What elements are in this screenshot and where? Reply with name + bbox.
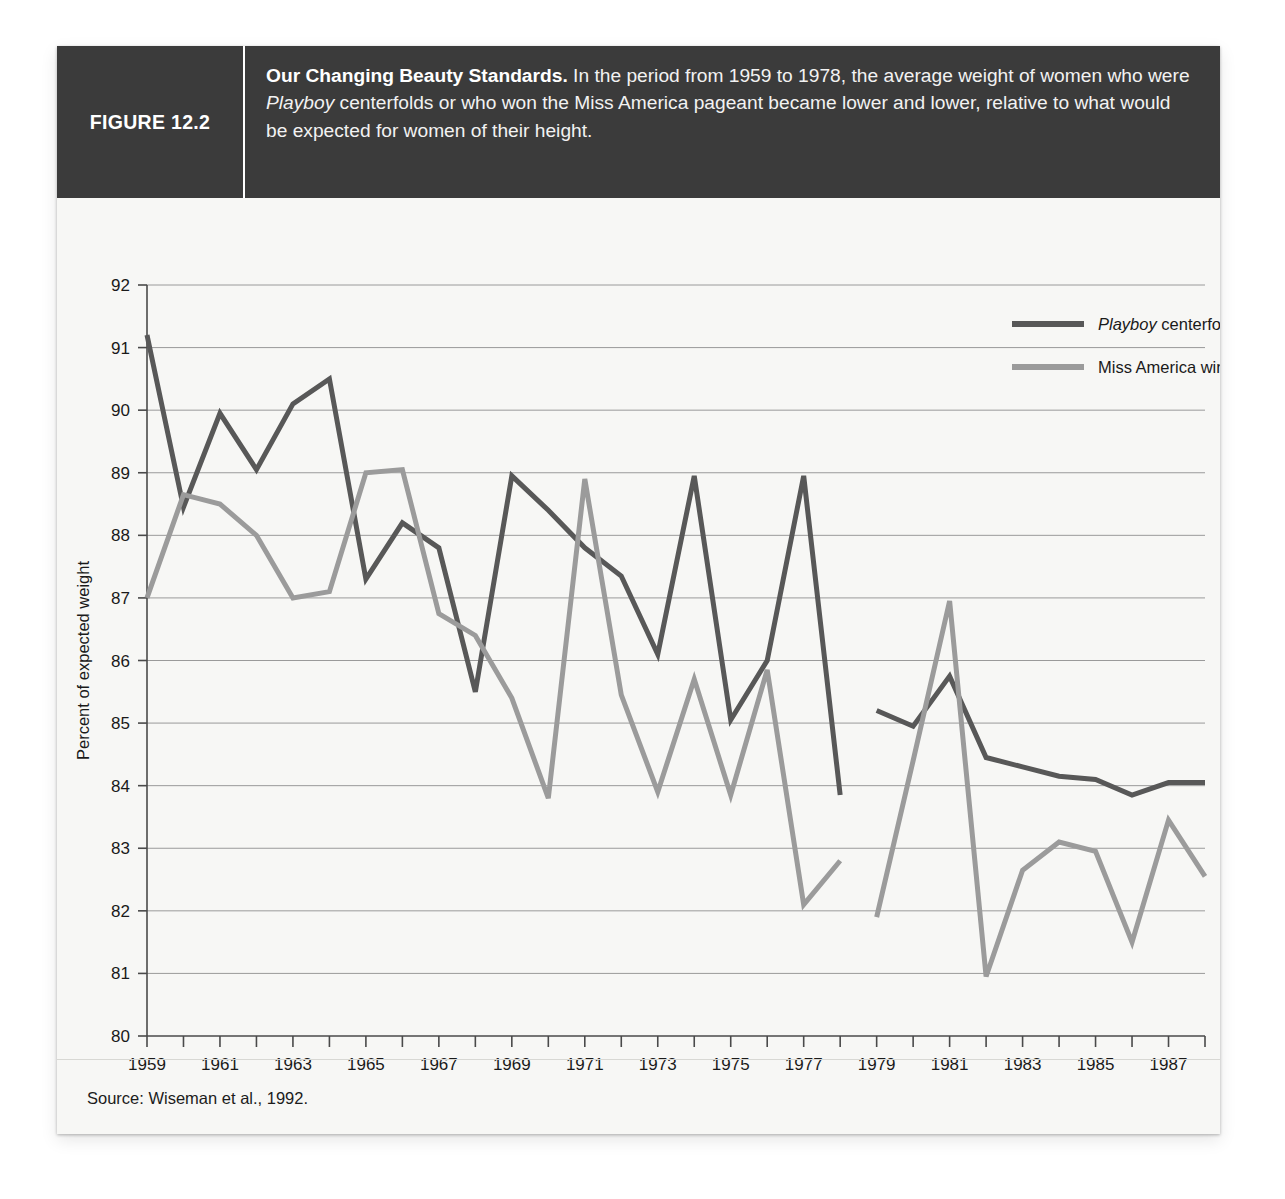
- legend-label-1: Miss America winners: [1098, 358, 1220, 376]
- x-tick-label-1975: 1975: [712, 1055, 750, 1074]
- x-tick-label-1969: 1969: [493, 1055, 531, 1074]
- y-tick-label-84: 84: [111, 777, 130, 796]
- figure-card: FIGURE 12.2 Our Changing Beauty Standard…: [57, 46, 1220, 1134]
- y-tick-label-86: 86: [111, 652, 130, 671]
- figure-number-block: FIGURE 12.2: [57, 46, 245, 198]
- x-tick-label-1987: 1987: [1150, 1055, 1188, 1074]
- figure-page: FIGURE 12.2 Our Changing Beauty Standard…: [0, 0, 1285, 1199]
- y-axis-title: Percent of expected weight: [74, 561, 92, 760]
- line-chart: 8081828384858687888990919219591961196319…: [57, 198, 1220, 1078]
- x-tick-label-1961: 1961: [201, 1055, 239, 1074]
- y-tick-label-92: 92: [111, 276, 130, 295]
- y-tick-label-81: 81: [111, 964, 130, 983]
- x-tick-label-1981: 1981: [931, 1055, 969, 1074]
- figure-caption: Our Changing Beauty Standards. In the pe…: [245, 46, 1220, 198]
- x-tick-label-1971: 1971: [566, 1055, 604, 1074]
- legend-label-0: Playboy centerfolds: [1098, 315, 1220, 333]
- x-tick-label-1979: 1979: [858, 1055, 896, 1074]
- y-tick-label-90: 90: [111, 401, 130, 420]
- x-tick-label-1967: 1967: [420, 1055, 458, 1074]
- caption-title: Our Changing Beauty Standards.: [266, 65, 568, 86]
- x-tick-label-1985: 1985: [1077, 1055, 1115, 1074]
- x-tick-label-1977: 1977: [785, 1055, 823, 1074]
- x-tick-label-1965: 1965: [347, 1055, 385, 1074]
- footer-divider: [57, 1059, 1220, 1060]
- x-tick-label-1983: 1983: [1004, 1055, 1042, 1074]
- series-line-0-segment-0: [147, 335, 840, 795]
- caption-text-1: In the period from 1959 to 1978, the ave…: [568, 65, 1190, 86]
- y-tick-label-91: 91: [111, 339, 130, 358]
- y-tick-label-80: 80: [111, 1027, 130, 1046]
- y-tick-label-85: 85: [111, 714, 130, 733]
- caption-text-2: centerfolds or who won the Miss America …: [266, 92, 1170, 140]
- figure-header-bar: FIGURE 12.2 Our Changing Beauty Standard…: [57, 46, 1220, 198]
- caption-italic-playboy: Playboy: [266, 92, 334, 113]
- y-tick-label-87: 87: [111, 589, 130, 608]
- y-tick-label-82: 82: [111, 902, 130, 921]
- y-tick-label-89: 89: [111, 464, 130, 483]
- x-tick-label-1963: 1963: [274, 1055, 312, 1074]
- x-tick-label-1959: 1959: [128, 1055, 166, 1074]
- y-tick-label-83: 83: [111, 839, 130, 858]
- chart-plot-area: 8081828384858687888990919219591961196319…: [57, 198, 1220, 1078]
- y-tick-label-88: 88: [111, 526, 130, 545]
- x-tick-label-1973: 1973: [639, 1055, 677, 1074]
- figure-number: FIGURE 12.2: [90, 111, 210, 134]
- source-note: Source: Wiseman et al., 1992.: [87, 1089, 308, 1108]
